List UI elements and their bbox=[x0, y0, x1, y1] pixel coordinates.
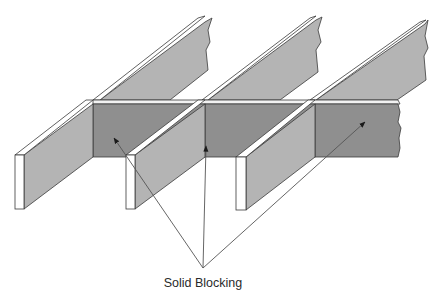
joist-3-back bbox=[310, 20, 428, 100]
joist-2-back bbox=[202, 16, 322, 100]
solid-blocking-diagram: Solid Blocking bbox=[0, 0, 439, 296]
leader-arrow-block-2 bbox=[203, 146, 206, 268]
joist-1-front bbox=[15, 100, 93, 209]
block-3 bbox=[315, 104, 401, 157]
solid-blocking-label: Solid Blocking bbox=[143, 276, 263, 290]
joist-1-back bbox=[93, 16, 212, 100]
